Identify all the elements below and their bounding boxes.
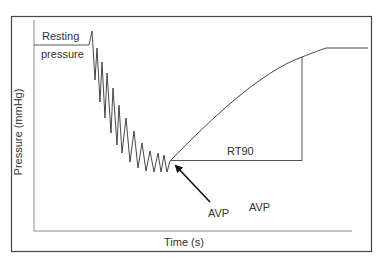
avp-second-label: AVP [249,202,270,213]
recovery-curve [170,48,368,161]
pressure-oscillation-trace [92,31,170,172]
resting-label-line2: pressure [41,49,84,60]
rt90-label: RT90 [227,146,254,157]
avp-arrow-icon [176,166,210,202]
resting-label-line1: Resting [42,31,79,42]
avp-arrow-label: AVP [208,208,229,219]
x-axis-label: Time (s) [164,237,204,248]
diagram-stage: Resting pressure RT90 AVP AVP Time (s) P… [0,0,382,264]
y-axis-label: Pressure (mmHg) [12,89,24,176]
